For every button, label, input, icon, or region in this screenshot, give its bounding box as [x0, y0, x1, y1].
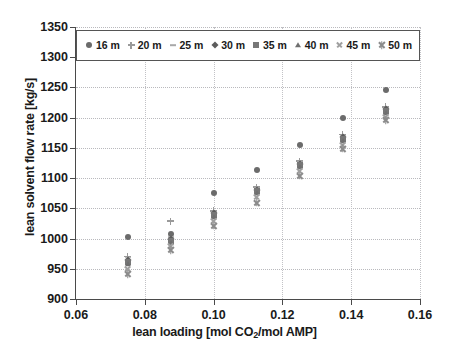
chart-root: lean solvent flow rate [kg/s] lean loadi…	[0, 0, 449, 353]
legend-item-label: 45 m	[346, 39, 370, 51]
legend-item-40-m[interactable]: 40 m	[293, 39, 329, 51]
x-gridline	[145, 27, 146, 299]
data-point	[251, 197, 262, 208]
legend-item-50-m[interactable]: 50 m	[376, 39, 412, 51]
legend-item-20-m[interactable]: 20 m	[126, 39, 162, 51]
data-point	[165, 245, 176, 256]
chart-legend: 16 m20 m25 m30 m35 m40 m45 m50 m	[76, 30, 420, 61]
data-point	[294, 170, 305, 181]
y-axis-tick-label: 1200	[24, 111, 68, 125]
x-axis-tick-label: 0.06	[64, 308, 88, 322]
y-gridline	[76, 118, 420, 119]
y-gridline	[76, 87, 420, 88]
legend-item-label: 40 m	[305, 39, 329, 51]
y-gridline	[76, 148, 420, 149]
legend-item-45-m[interactable]: 45 m	[334, 39, 370, 51]
x-gridline	[420, 27, 421, 299]
data-point	[380, 85, 391, 96]
legend-item-label: 20 m	[138, 39, 162, 51]
data-point	[165, 216, 176, 227]
data-point	[337, 143, 348, 154]
x-gridline	[351, 27, 352, 299]
y-axis-tick-label: 1250	[24, 80, 68, 94]
marker-square-icon	[251, 40, 262, 51]
y-axis-tick	[70, 87, 76, 88]
y-gridline	[76, 27, 420, 28]
y-gridline	[76, 178, 420, 179]
marker-plus-icon	[126, 40, 137, 51]
y-axis-tick-label: 1000	[24, 232, 68, 246]
x-axis-tick-label: 0.10	[201, 308, 225, 322]
y-axis-tick	[70, 178, 76, 179]
y-axis-tick	[70, 27, 76, 28]
y-gridline	[76, 208, 420, 209]
y-axis-tick-label: 1150	[24, 141, 68, 155]
data-point	[337, 113, 348, 124]
x-axis-tick	[145, 299, 146, 305]
data-point	[251, 164, 262, 175]
legend-item-label: 50 m	[388, 39, 412, 51]
x-axis-tick-label: 0.14	[339, 308, 363, 322]
x-axis-tick	[420, 299, 421, 305]
y-axis-tick-label: 1050	[24, 201, 68, 215]
legend-item-25-m[interactable]: 25 m	[167, 39, 203, 51]
x-axis-tick-label: 0.08	[133, 308, 157, 322]
x-axis-tick-label: 0.16	[408, 308, 432, 322]
y-axis-tick	[70, 148, 76, 149]
y-axis-tick	[70, 269, 76, 270]
y-axis-tick-label: 1300	[24, 50, 68, 64]
x-axis-title-main: lean loading [mol CO	[132, 325, 253, 339]
marker-star-icon	[376, 40, 387, 51]
x-gridline	[282, 27, 283, 299]
x-axis-tick	[351, 299, 352, 305]
legend-item-label: 16 m	[96, 39, 120, 51]
legend-item-label: 25 m	[179, 39, 203, 51]
y-axis-tick	[70, 208, 76, 209]
marker-cross-icon	[334, 40, 345, 51]
x-gridline	[214, 27, 215, 299]
x-axis-tick	[214, 299, 215, 305]
data-point	[208, 187, 219, 198]
plot-area: 900950100010501100115012001250130013500.…	[75, 27, 420, 300]
x-axis-tick-label: 0.12	[270, 308, 294, 322]
marker-diamond-icon	[209, 40, 220, 51]
y-axis-tick-label: 900	[24, 292, 68, 306]
y-axis-tick	[70, 239, 76, 240]
legend-item-30-m[interactable]: 30 m	[209, 39, 245, 51]
data-point	[208, 220, 219, 231]
y-axis-tick-label: 1350	[24, 20, 68, 34]
x-axis-tick	[76, 299, 77, 305]
data-point	[122, 231, 133, 242]
x-axis-title: lean loading [mol CO2/mol AMP]	[0, 325, 449, 340]
marker-circle-icon	[84, 40, 95, 51]
legend-item-label: 35 m	[263, 39, 287, 51]
data-point	[294, 139, 305, 150]
data-point	[122, 269, 133, 280]
y-axis-tick-label: 1100	[24, 171, 68, 185]
x-axis-title-tail: /mol AMP]	[258, 325, 317, 339]
x-axis-tick	[282, 299, 283, 305]
data-point	[380, 115, 391, 126]
legend-item-16-m[interactable]: 16 m	[84, 39, 120, 51]
y-axis-tick-label: 950	[24, 262, 68, 276]
y-axis-tick	[70, 118, 76, 119]
marker-dash-icon	[167, 40, 178, 51]
marker-triangle-icon	[293, 40, 304, 51]
legend-item-35-m[interactable]: 35 m	[251, 39, 287, 51]
legend-item-label: 30 m	[221, 39, 245, 51]
